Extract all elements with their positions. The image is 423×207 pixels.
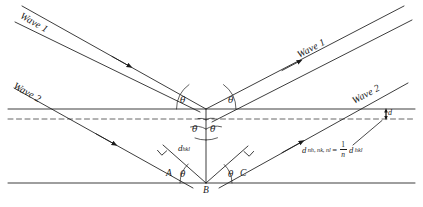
right-angle-mark-c: [244, 151, 254, 156]
theta-mid-left-label: θ: [192, 124, 197, 134]
d-hkl-subscript: hkl: [183, 145, 191, 152]
point-c-label: C: [240, 168, 246, 178]
equation-fraction-denominator: n: [341, 150, 345, 158]
point-b-label: B: [203, 185, 209, 195]
wave1-outgoing-ray-lower: [212, 20, 412, 122]
interplanar-spacing-equation: dnh, nk, nl = 1 n dhkl: [302, 141, 362, 158]
equation-fraction: 1 n: [340, 141, 347, 158]
bragg-diffraction-figure: Wave 1 Wave 1 Wave 2 Wave 2 θ θ θ θ θ θ …: [0, 0, 423, 207]
wave1-incoming-ray-upper: [15, 22, 200, 112]
angle-arc-mid-right: [206, 138, 218, 140]
wave2-outgoing-ray: [219, 83, 408, 188]
equation-fraction-numerator: 1: [341, 141, 345, 149]
d-small-label: d: [388, 108, 392, 117]
d-hkl-label: dhkl: [178, 143, 190, 153]
equation-rhs-subscript: hkl: [355, 146, 363, 153]
diagram-canvas: [0, 0, 423, 207]
theta-top-right-label: θ: [228, 95, 233, 105]
angle-arc-mid-left: [195, 138, 206, 140]
theta-top-left-label: θ: [180, 95, 185, 105]
point-a-label: A: [166, 168, 172, 178]
equation-rhs-symbol: d: [349, 145, 353, 155]
equation-equals-sign: =: [332, 145, 337, 155]
theta-bottom-right-label: θ: [228, 169, 233, 179]
wave2-outgoing-arrow: [282, 142, 302, 153]
right-angle-mark-a: [158, 150, 167, 155]
theta-bottom-left-label: θ: [180, 169, 185, 179]
wave2-incoming-arrow: [96, 134, 115, 145]
equation-lhs-subscript: nh, nk, nl: [308, 146, 331, 153]
equation-lhs-symbol: d: [302, 145, 306, 155]
theta-mid-right-label: θ: [210, 124, 215, 134]
wave1-incoming-arrow: [112, 56, 130, 66]
wave1-outgoing-arrow: [282, 61, 300, 71]
